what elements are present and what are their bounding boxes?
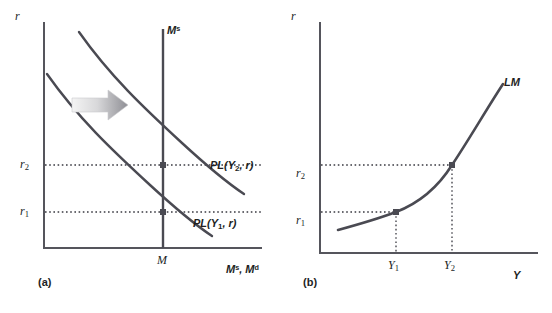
panel-a-equilibrium-marker-r2 xyxy=(160,162,166,168)
lm-curve-derivation-figure: r r2 r1 M Ms Ms, Md PL(Y2, r) PL(Y1, r) … xyxy=(0,0,552,313)
money-supply-label-base: M xyxy=(167,24,176,36)
figure-canvas xyxy=(0,0,552,313)
pl-y2-prefix: PL(Y xyxy=(210,159,235,171)
lm-curve xyxy=(338,84,503,230)
lm-curve-label: LM xyxy=(504,77,520,88)
panel-a-x-label-sup2: d xyxy=(255,263,259,272)
panel-b-point-marker-y1r1 xyxy=(393,209,399,215)
panel-a-caption: (a) xyxy=(38,277,51,288)
panel-b-tick-r1-sub: 1 xyxy=(301,218,305,228)
panel-b-graph xyxy=(319,22,538,254)
panel-b-tick-label-y2: Y2 xyxy=(444,259,455,273)
panel-b-tick-label-r1: r1 xyxy=(296,214,305,228)
panel-b-tick-label-r2: r2 xyxy=(296,167,305,181)
pl-y2-suffix: , r) xyxy=(239,159,253,171)
panel-b-tick-y1-sub: 1 xyxy=(395,263,399,273)
panel-a-y-axis-label: r xyxy=(15,10,20,22)
money-demand-curve-y1-label: PL(Y1, r) xyxy=(193,218,237,231)
panel-b-caption: (b) xyxy=(303,277,317,288)
panel-a-equilibrium-marker-r1 xyxy=(160,209,166,215)
panel-b-point-marker-y2r2 xyxy=(449,162,455,168)
panel-a-tick-label-r1: r1 xyxy=(20,205,29,219)
money-demand-curve-y2-label: PL(Y2, r) xyxy=(210,160,254,173)
panel-a-x-axis-label: Ms, Md xyxy=(226,264,259,275)
panel-b-tick-label-y1: Y1 xyxy=(388,259,399,273)
panel-b-y-axis-label: r xyxy=(291,10,296,22)
panel-a-graph xyxy=(43,22,262,249)
panel-a-tick-label-m: M xyxy=(157,254,167,266)
pl-y1-prefix: PL(Y xyxy=(193,217,218,229)
money-supply-curve-label: Ms xyxy=(167,25,180,36)
pl-y1-suffix: , r) xyxy=(222,217,236,229)
money-supply-label-sup: s xyxy=(176,24,180,33)
panel-a-tick-r2-sub: 2 xyxy=(25,162,29,172)
panel-a-x-label-m1: M xyxy=(226,263,235,275)
panel-a-tick-r1-sub: 1 xyxy=(25,209,29,219)
panel-a-tick-label-r2: r2 xyxy=(20,158,29,172)
panel-b-tick-y1-base: Y xyxy=(388,258,395,272)
panel-a-x-label-mid: , M xyxy=(239,263,254,275)
panel-b-tick-r2-sub: 2 xyxy=(301,171,305,181)
panel-b-x-axis-label: Y xyxy=(513,270,520,281)
panel-b-tick-y2-base: Y xyxy=(444,258,451,272)
panel-b-tick-y2-sub: 2 xyxy=(451,263,455,273)
